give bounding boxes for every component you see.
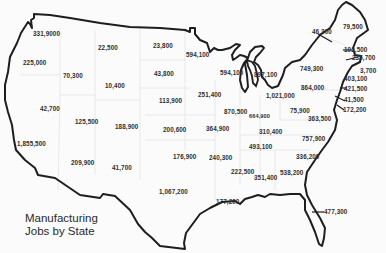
map-title-line1: Manufacturing bbox=[25, 212, 98, 225]
label-new-mexico: 41,700 bbox=[112, 165, 132, 171]
label-illinois: 870,500 bbox=[224, 109, 247, 115]
label-tennessee: 493,100 bbox=[249, 144, 272, 150]
label-north-carolina: 757,900 bbox=[302, 136, 325, 142]
label-ohio: 1,021,000 bbox=[266, 93, 295, 99]
label-colorado: 188,900 bbox=[115, 124, 138, 130]
label-missouri: 364,900 bbox=[206, 126, 229, 132]
label-texas: 1,067,200 bbox=[159, 189, 188, 195]
label-connecticut: 403,100 bbox=[344, 76, 367, 82]
label-california: 1,855,500 bbox=[17, 141, 46, 147]
label-massachusetts: 235,700 bbox=[352, 55, 375, 61]
label-wyoming: 10,400 bbox=[105, 83, 125, 89]
label-indiana: 664,900 bbox=[249, 114, 270, 120]
label-arizona: 209,900 bbox=[71, 160, 94, 166]
label-montana: 22,500 bbox=[98, 45, 118, 51]
label-iowa: 251,400 bbox=[198, 92, 221, 98]
label-utah: 125,500 bbox=[75, 119, 98, 125]
label-florida: 477,300 bbox=[324, 209, 347, 215]
label-maryland: 172,200 bbox=[343, 107, 366, 113]
label-arkansas: 240,300 bbox=[209, 155, 232, 161]
label-mississippi: 222,500 bbox=[231, 169, 254, 175]
label-wisconsin: 594,100 bbox=[220, 70, 243, 76]
label-maine: 79,500 bbox=[343, 24, 363, 30]
label-south-dakota: 43,800 bbox=[154, 71, 174, 77]
label-washington: 331,9000 bbox=[33, 31, 60, 37]
label-pennsylvania: 864,000 bbox=[301, 85, 324, 91]
us-map: 331,9000 225,000 70,300 22,500 10,400 42… bbox=[0, 0, 386, 253]
label-kansas: 200,600 bbox=[163, 127, 186, 133]
label-minnesota: 594,100 bbox=[186, 52, 209, 58]
label-alabama: 351,400 bbox=[254, 175, 277, 181]
label-oklahoma: 176,900 bbox=[173, 154, 196, 160]
label-new-hampshire: 102,500 bbox=[344, 47, 367, 53]
label-nevada: 42,700 bbox=[40, 106, 60, 112]
map-title: Manufacturing Jobs by State bbox=[25, 212, 98, 238]
label-rhode-island: 3,700 bbox=[360, 68, 376, 74]
map-title-line2: Jobs by State bbox=[25, 225, 98, 238]
label-north-dakota: 23,800 bbox=[153, 43, 173, 49]
label-new-york: 749,300 bbox=[300, 66, 323, 72]
label-vermont: 46,300 bbox=[312, 29, 332, 35]
label-new-jersey: 421,500 bbox=[344, 86, 367, 92]
label-idaho: 70,300 bbox=[63, 73, 83, 79]
label-nebraska: 113,900 bbox=[159, 98, 182, 104]
label-virginia: 363,500 bbox=[308, 116, 331, 122]
label-kentucky: 310,400 bbox=[259, 129, 282, 135]
label-michigan: 897,100 bbox=[254, 72, 277, 78]
label-delaware: 41,500 bbox=[344, 97, 364, 103]
label-louisiana: 177,200 bbox=[216, 199, 239, 205]
label-south-carolina: 336,200 bbox=[296, 154, 319, 160]
label-oregon: 225,000 bbox=[23, 60, 46, 66]
label-west-virginia: 75,900 bbox=[290, 108, 310, 114]
label-georgia: 538,200 bbox=[280, 170, 303, 176]
